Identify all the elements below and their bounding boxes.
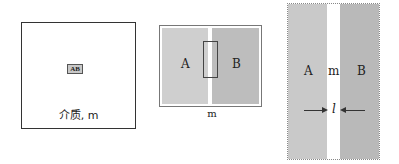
body-a-label: A: [181, 57, 190, 71]
ab-bodies-label: AB: [67, 64, 83, 74]
slab-a-label: A: [304, 64, 313, 78]
separation-distance-label: l: [328, 102, 340, 116]
medium-caption: 介质, m: [21, 106, 136, 122]
left-arrow-shaft: [304, 110, 324, 111]
medium-caption-m: m: [200, 108, 224, 119]
right-arrow-shaft: [345, 110, 365, 111]
left-pointing-arrow-icon: [340, 107, 346, 113]
highlight-rectangle: [203, 41, 218, 78]
gap-medium-label: m: [328, 64, 339, 78]
body-b-label: B: [232, 57, 241, 71]
body-b-slab: [340, 4, 379, 159]
body-a-slab: [288, 4, 327, 159]
slab-b-label: B: [357, 64, 366, 78]
